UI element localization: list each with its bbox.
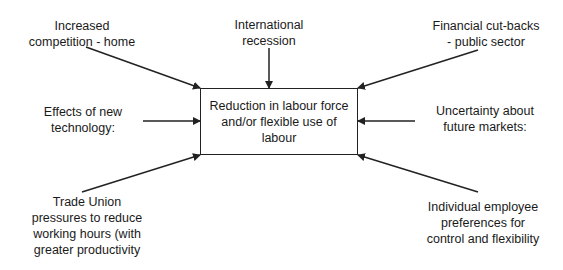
factor-line: future markets: <box>425 119 545 135</box>
factor-line: International <box>219 17 319 33</box>
factor-line: Financial cut-backs <box>422 18 550 34</box>
factor-line: pressures to reduce <box>22 210 152 226</box>
center-box: Reduction in labour force and/or flexibl… <box>200 88 358 155</box>
factor-markets: Uncertainty about future markets: <box>425 103 545 135</box>
center-line: and/or flexible use of <box>221 114 336 130</box>
factor-line: Uncertainty about <box>425 103 545 119</box>
factor-line: competition - home <box>22 34 142 50</box>
arrow-competition <box>86 47 200 88</box>
factor-trade-union: Trade Union pressures to reduce working … <box>22 194 152 258</box>
factor-recession: International recession <box>219 17 319 49</box>
center-line: labour <box>262 130 297 146</box>
factor-line: Trade Union <box>22 194 152 210</box>
factor-line: recession <box>219 33 319 49</box>
factor-line: - public sector <box>422 34 550 50</box>
factor-line: control and flexibility <box>413 231 553 247</box>
center-line: Reduction in labour force <box>210 98 349 114</box>
factor-line: Individual employee <box>413 199 553 215</box>
factor-competition: Increased competition - home <box>22 18 142 50</box>
factor-cutbacks: Financial cut-backs - public sector <box>422 18 550 50</box>
factor-line: Increased <box>22 18 142 34</box>
arrow-trade-union <box>82 155 200 192</box>
arrow-cutbacks <box>358 50 478 88</box>
factor-line: greater productivity <box>22 242 152 258</box>
factor-technology: Effects of new technology: <box>30 104 136 136</box>
factor-employee-prefs: Individual employee preferences for cont… <box>413 199 553 247</box>
factor-line: preferences for <box>413 215 553 231</box>
factor-line: Effects of new <box>30 104 136 120</box>
factor-line: working hours (with <box>22 226 152 242</box>
arrow-employee-prefs <box>358 155 478 192</box>
factor-line: technology: <box>30 120 136 136</box>
